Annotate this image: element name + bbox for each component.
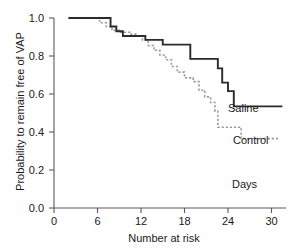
x-tick-label: 6 bbox=[78, 216, 118, 227]
x-axis-title: Number at risk bbox=[54, 233, 274, 244]
plot-area bbox=[0, 0, 303, 252]
x-tick-label: 30 bbox=[252, 216, 292, 227]
y-tick-label: 0.0 bbox=[0, 203, 44, 214]
x-tick-label: 0 bbox=[34, 216, 74, 227]
kaplan-meier-chart: 0.00.20.40.60.81.0 0612182430 Probabilit… bbox=[0, 0, 303, 252]
x-tick-label: 24 bbox=[208, 216, 248, 227]
x-axis-ticks bbox=[54, 208, 272, 213]
series-label-control: Control bbox=[233, 135, 268, 146]
series-line-control bbox=[69, 18, 279, 139]
series-label-saline: Saline bbox=[228, 103, 259, 114]
x-tick-label: 12 bbox=[121, 216, 161, 227]
y-axis-ticks bbox=[49, 18, 54, 208]
x-tick-label: 18 bbox=[165, 216, 205, 227]
series-line-saline bbox=[69, 18, 283, 106]
days-annotation: Days bbox=[232, 179, 257, 190]
y-axis-title: Probability to remain free of VAP bbox=[15, 22, 26, 202]
